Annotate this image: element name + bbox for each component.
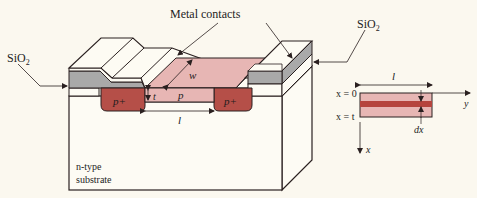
x-axis-label: x [365,144,371,155]
y-axis-label: y [463,98,469,109]
xt-label: x = t [336,111,355,122]
t-label: t [153,91,156,102]
dx-label: dx [414,124,424,135]
substrate-label-line2: substrate [76,174,112,185]
p-label: p [177,89,184,101]
inset-l-label: l [392,70,395,82]
w-label: w [189,69,197,81]
sio2-left-leader [18,64,67,86]
l-label: l [178,114,181,126]
sio2-right-label: SiO2 [357,17,380,33]
metal-contacts-label: Metal contacts [170,7,241,21]
p-plus-left-label: p+ [112,95,126,107]
sio2-left-label: SiO2 [7,51,30,67]
metal-contacts-leader-left [178,23,218,55]
inset-slice-diagram [360,85,470,153]
substrate-label-line1: n-type [76,161,102,172]
p-plus-right-label: p+ [223,95,237,107]
sio2-right-leader [314,30,365,62]
x0-label: x = 0 [336,88,357,99]
resistor-diagram: Metal contacts SiO2 SiO2 w t p p+ p+ l n… [0,0,477,198]
